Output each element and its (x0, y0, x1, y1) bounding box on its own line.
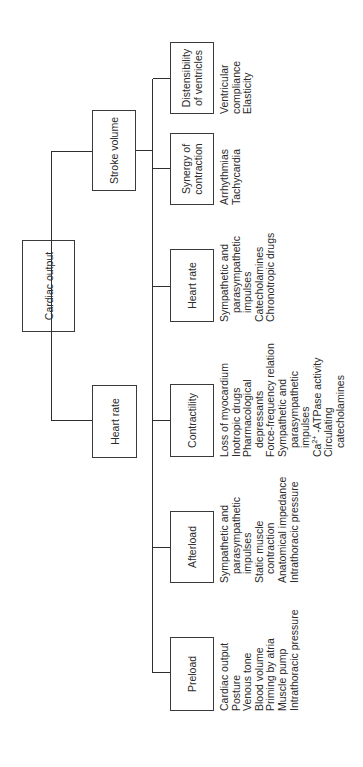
factor: Sympathetic and (277, 343, 289, 457)
connector-afterload (153, 547, 170, 548)
box-preload: Preload (170, 637, 214, 711)
box-heart-rate-level3: Heart rate (170, 249, 214, 322)
factor: Tachycardia (231, 149, 243, 205)
factor: catecholamines (335, 343, 347, 457)
synergy-label-line1: Synergy of (180, 144, 192, 194)
connector-distensibility (153, 78, 170, 79)
distensibility-label-line2: of ventricles (192, 50, 204, 106)
connector-contractility (153, 420, 170, 421)
connector-stroke-volume-out (136, 150, 153, 151)
factor: Sympathetic and (219, 477, 231, 583)
factor: Ventricular (219, 61, 231, 114)
afterload-label: Afterload (186, 526, 198, 568)
contractility-label: Contractility (186, 393, 198, 448)
preload-factors: Cardiac output Posture Venous tone Blood… (219, 609, 300, 711)
distensibility-factors: Ventricular compliance Elasticity (219, 61, 254, 114)
factor: Intrathoracic pressure (289, 609, 301, 711)
root-box-cardiac-output: Cardiac output (22, 240, 75, 332)
box-contractility: Contractility (170, 384, 214, 457)
factor: Chronotropic drugs (265, 233, 277, 322)
connector-preload (153, 672, 170, 673)
cardiac-output-diagram: Cardiac output Stroke volume Heart rate … (0, 0, 363, 767)
heart-rate-factors: Sympathetic and parasympathetic impulses… (219, 233, 277, 322)
box-synergy-of-contraction: Synergy of contraction (170, 133, 214, 205)
root-label: Cardiac output (43, 252, 55, 320)
factor: Intrathoracic pressure (289, 477, 301, 583)
box-distensibility: Distensibility of ventricles (170, 42, 214, 114)
connector-synergy (153, 168, 170, 169)
afterload-factors: Sympathetic and parasympathetic impulses… (219, 477, 300, 583)
factor: Loss of myocardium (219, 343, 231, 457)
factor: Elasticity (242, 61, 254, 114)
synergy-factors: Arrhythmias Tachycardia (219, 149, 242, 205)
connector-to-stroke-volume (52, 151, 92, 152)
box-heart-rate-level2: Heart rate (92, 385, 137, 458)
heart-rate-level2-label: Heart rate (109, 398, 121, 445)
factor: Anatomical impedance (277, 477, 289, 583)
factor: Arrhythmias (219, 149, 231, 205)
factor: Cardiac output (219, 609, 231, 711)
ca-prefix: Ca (311, 444, 323, 457)
connector-root-spine (51, 151, 52, 421)
distensibility-label-line1: Distensibility (180, 49, 192, 107)
factor: Muscle pump (277, 609, 289, 711)
ca-suffix: -ATPase activity (311, 358, 323, 436)
connector-heart-rate-level3 (153, 286, 170, 287)
connector-to-heart-rate (52, 420, 92, 421)
synergy-label-line2: contraction (192, 143, 204, 194)
stroke-volume-label: Stroke volume (108, 117, 120, 184)
box-stroke-volume: Stroke volume (92, 110, 136, 191)
preload-label: Preload (186, 656, 198, 692)
factor: Sympathetic and (219, 233, 231, 322)
box-afterload: Afterload (170, 511, 214, 583)
contractility-factors: Loss of myocardium Inotropic drugs Pharm… (219, 343, 347, 457)
ca-superscript: 2+ (310, 436, 317, 444)
heart-rate-level3-label: Heart rate (186, 262, 198, 309)
